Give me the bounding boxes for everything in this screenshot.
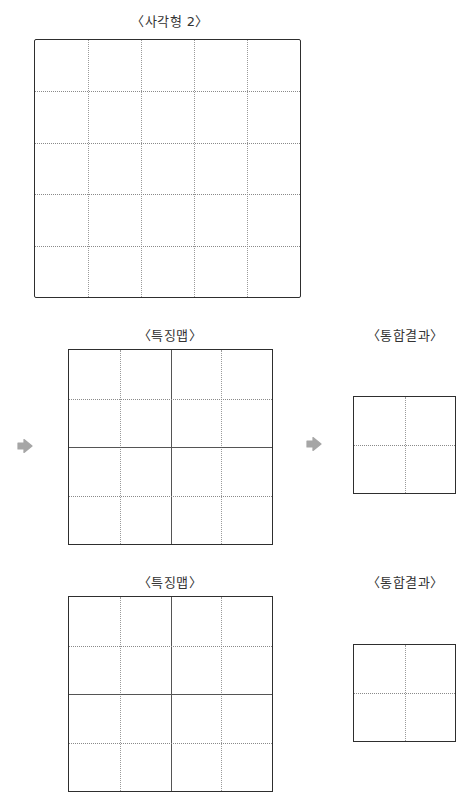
- feature-map-label-2: 〈특징맵〉: [138, 572, 203, 591]
- grid-line: [69, 447, 272, 448]
- grid-line: [69, 646, 272, 647]
- pooling-result-grid: [353, 396, 456, 494]
- grid-line: [69, 694, 272, 695]
- grid-line: [247, 40, 248, 297]
- grid-line: [88, 40, 89, 297]
- grid-line: [354, 693, 455, 694]
- right-arrow-icon: [306, 437, 322, 451]
- right-arrow-icon: [17, 439, 33, 453]
- grid-line: [69, 399, 272, 400]
- feature-map-label: 〈특징맵〉: [138, 325, 203, 344]
- grid-line: [69, 743, 272, 744]
- grid-line: [141, 40, 142, 297]
- grid-line: [69, 496, 272, 497]
- feature-map-grid: [68, 349, 273, 545]
- grid-line: [35, 143, 300, 144]
- grid-line: [35, 194, 300, 195]
- pooling-result-label: 〈통합결과〉: [367, 325, 444, 344]
- feature-map-grid-2: [68, 596, 273, 792]
- input-square-label: 〈사각형 2〉: [131, 11, 209, 30]
- grid-line: [354, 445, 455, 446]
- grid-line: [35, 246, 300, 247]
- grid-line: [194, 40, 195, 297]
- input-square-grid: [34, 39, 301, 298]
- pooling-result-grid-2: [353, 644, 456, 742]
- pooling-result-label-2: 〈통합결과〉: [367, 572, 444, 591]
- grid-line: [35, 91, 300, 92]
